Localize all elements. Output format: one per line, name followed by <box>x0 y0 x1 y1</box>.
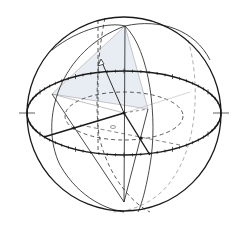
radius-front-right <box>124 113 150 155</box>
dashed-equator-line <box>80 125 180 145</box>
point-right-chord <box>140 137 143 140</box>
dashed-right-diag <box>124 109 148 113</box>
center-point <box>122 111 125 114</box>
sphere-diagram <box>0 0 239 225</box>
point-left-chord <box>73 127 76 130</box>
small-mark <box>111 126 116 129</box>
